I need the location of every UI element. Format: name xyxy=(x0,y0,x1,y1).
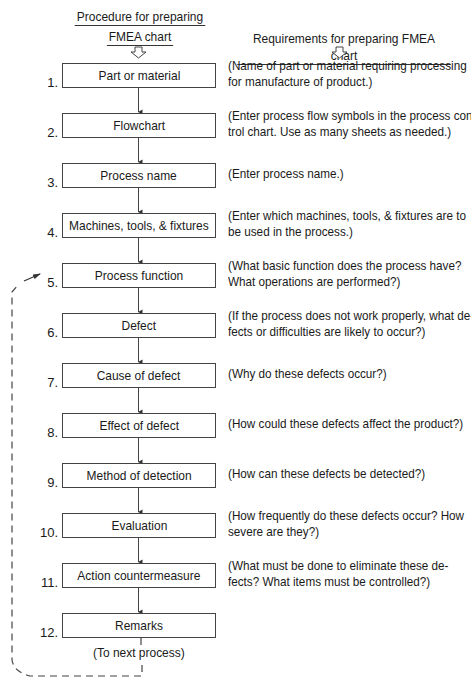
step-description: (Enter which machines, tools, & fixtures… xyxy=(228,208,449,240)
step-label: Evaluation xyxy=(111,518,167,533)
step-box-evaluation[interactable]: Evaluation xyxy=(62,513,216,538)
step-label: Action countermeasure xyxy=(78,568,201,583)
step-number: 1. xyxy=(28,75,58,90)
step-label: Flowchart xyxy=(113,118,165,133)
step-box-process-name[interactable]: Process name xyxy=(62,163,216,188)
hollow-arrow-right-icon xyxy=(332,47,347,58)
step-label: Cause of defect xyxy=(97,368,181,383)
step-label: Defect xyxy=(122,318,157,333)
step-number: 7. xyxy=(28,375,58,390)
step-description: (Why do these defects occur?) xyxy=(228,366,449,382)
step-description: (Enter process name.) xyxy=(228,166,449,182)
step-number: 9. xyxy=(28,475,58,490)
step-label: Process name xyxy=(101,168,177,183)
step-box-part-or-material[interactable]: Part or material xyxy=(62,63,216,88)
step-box-action-countermeasure[interactable]: Action countermeasure xyxy=(62,563,216,588)
step-box-process-function[interactable]: Process function xyxy=(62,263,216,288)
step-box-flowchart[interactable]: Flowchart xyxy=(62,113,216,138)
step-description: (How can these defects be detected?) xyxy=(228,466,449,482)
step-description: (Name of part or material requiring proc… xyxy=(228,58,449,90)
step-number: 4. xyxy=(28,225,58,240)
step-number: 12. xyxy=(28,625,58,640)
step-box-remarks[interactable]: Remarks xyxy=(62,613,216,638)
step-description: (How frequently do these defects occur? … xyxy=(228,508,449,540)
step-number: 2. xyxy=(28,125,58,140)
step-label: Effect of defect xyxy=(99,418,179,433)
step-box-defect[interactable]: Defect xyxy=(62,313,216,338)
step-description: (How could these defects affect the prod… xyxy=(228,416,449,432)
step-description: (What basic function does the process ha… xyxy=(228,258,449,290)
step-description: (If the process does not work properly, … xyxy=(228,308,449,340)
step-label: Part or material xyxy=(98,68,180,83)
hollow-arrow-left-icon xyxy=(131,47,146,58)
step-description: (Enter process flow symbols in the proce… xyxy=(228,108,449,140)
step-box-cause-of-defect[interactable]: Cause of defect xyxy=(62,363,216,388)
step-label: Remarks xyxy=(115,618,163,633)
step-label: Process function xyxy=(95,268,183,283)
step-number: 5. xyxy=(28,275,58,290)
step-number: 11. xyxy=(28,575,58,590)
step-box-machines-tools-fixtures[interactable]: Machines, tools, & fixtures xyxy=(62,213,216,238)
to-next-process-label: (To next process) xyxy=(62,645,216,660)
step-description: (What must be done to eliminate these de… xyxy=(228,558,449,590)
step-box-method-of-detection[interactable]: Method of detection xyxy=(62,463,216,488)
step-label: Machines, tools, & fixtures xyxy=(69,218,209,233)
step-number: 8. xyxy=(28,425,58,440)
step-number: 10. xyxy=(28,525,58,540)
step-number: 3. xyxy=(28,175,58,190)
step-label: Method of detection xyxy=(86,468,191,483)
step-number: 6. xyxy=(28,325,58,340)
step-box-effect-of-defect[interactable]: Effect of defect xyxy=(62,413,216,438)
